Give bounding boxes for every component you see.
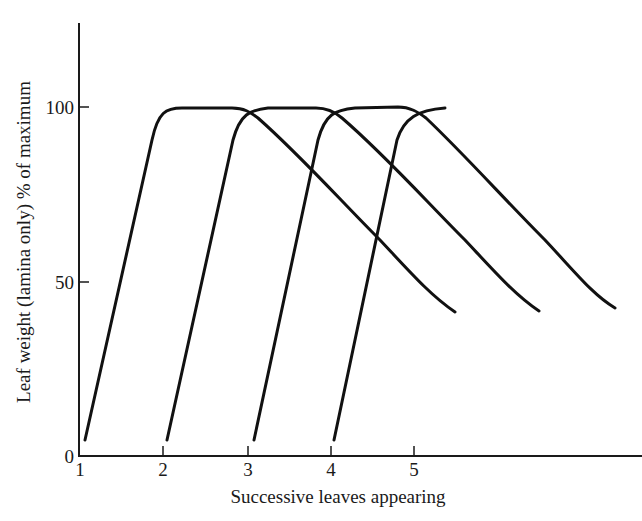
y-tick-label-100: 100 xyxy=(46,97,75,118)
x-tick-label-4: 4 xyxy=(326,459,336,480)
chart: 100 50 0 1 2 3 4 5 Successive leaves app… xyxy=(0,0,642,521)
series-leaf-4 xyxy=(334,108,445,440)
series-leaf-3 xyxy=(254,107,615,440)
x-tick-label-5: 5 xyxy=(409,459,419,480)
y-axis-label: Leaf weight (lamina only) % of maximum xyxy=(13,81,35,403)
series-leaf-1 xyxy=(85,108,455,440)
x-tick-label-2: 2 xyxy=(158,459,168,480)
x-axis-label: Successive leaves appearing xyxy=(230,486,446,507)
x-tick-label-1: 1 xyxy=(75,459,85,480)
y-tick-label-50: 50 xyxy=(55,272,74,293)
series-leaf-2 xyxy=(167,108,539,440)
x-tick-label-3: 3 xyxy=(243,459,253,480)
y-tick-label-0: 0 xyxy=(65,446,75,467)
